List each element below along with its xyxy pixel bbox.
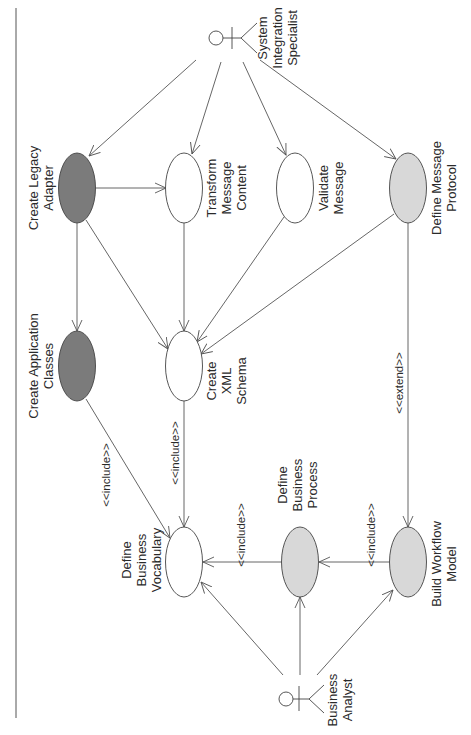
edge-sis-cla xyxy=(89,60,196,156)
svg-text:Classes: Classes xyxy=(41,342,56,389)
svg-text:<<include>>: <<include>> xyxy=(169,421,181,485)
label-create-application-classes: Create Application Classes xyxy=(26,313,56,419)
svg-text:XML: XML xyxy=(219,368,234,395)
svg-text:Business: Business xyxy=(134,533,149,586)
stereotype-dbp-dbv: <<include>> xyxy=(235,503,247,567)
svg-text:System: System xyxy=(255,16,270,59)
use-case-create-xml-schema[interactable] xyxy=(166,331,203,401)
edge-dmp-cxs xyxy=(201,214,394,354)
svg-text:<<extend>>: <<extend>> xyxy=(393,352,405,414)
actor-leg xyxy=(309,699,324,713)
svg-text:Process: Process xyxy=(305,461,320,508)
use-case-define-business-process[interactable] xyxy=(282,527,319,597)
use-case-transform-message-content[interactable] xyxy=(166,153,203,223)
label-define-business-vocabulary: Define Business Vocabulary xyxy=(119,527,164,592)
label-system-integration-specialist: System Integration Specialist xyxy=(255,7,300,68)
svg-text:<<include>>: <<include>> xyxy=(100,443,112,507)
use-case-define-business-vocabulary[interactable] xyxy=(166,527,203,597)
svg-text:Create: Create xyxy=(204,361,219,400)
use-case-build-workflow-model[interactable] xyxy=(390,527,427,597)
label-create-legacy-adapter: Create Legacy Adapter xyxy=(26,145,56,230)
stereotype-cac-dbv: <<include>> xyxy=(100,443,112,507)
svg-text:Transform: Transform xyxy=(204,159,219,218)
label-transform-message-content: Transform Message Content xyxy=(204,159,249,218)
svg-text:Build Workflow: Build Workflow xyxy=(429,521,444,607)
label-define-business-process: Define Business Process xyxy=(275,458,320,511)
svg-text:Integration: Integration xyxy=(270,7,285,68)
use-case-create-application-classes[interactable] xyxy=(59,331,96,401)
svg-text:<<include>>: <<include>> xyxy=(365,503,377,567)
svg-text:Validate: Validate xyxy=(316,165,331,211)
use-case-diagram: System Integration Specialist Business A… xyxy=(0,0,471,735)
svg-text:Model: Model xyxy=(444,546,459,582)
edge-ba-dbv xyxy=(201,582,283,675)
svg-text:<<include>>: <<include>> xyxy=(235,503,247,567)
actor-leg xyxy=(309,685,324,699)
svg-text:Message: Message xyxy=(219,162,234,215)
edge-sis-dmp xyxy=(260,60,396,159)
label-create-xml-schema: Create XML Schema xyxy=(204,356,249,404)
edge-ba-bwm xyxy=(317,590,393,675)
svg-text:Content: Content xyxy=(234,165,249,211)
label-validate-message: Validate Message xyxy=(316,162,346,215)
actor-head-icon xyxy=(279,692,293,706)
svg-text:Analyst: Analyst xyxy=(340,678,355,721)
svg-text:Define: Define xyxy=(119,541,134,579)
edge-cac-dbv xyxy=(86,399,170,538)
svg-text:Specialist: Specialist xyxy=(285,10,300,66)
svg-text:Define Message: Define Message xyxy=(429,141,444,235)
svg-text:Define: Define xyxy=(275,466,290,504)
svg-text:Create Legacy: Create Legacy xyxy=(26,145,41,230)
use-case-define-message-protocol[interactable] xyxy=(390,153,427,223)
use-case-validate-message[interactable] xyxy=(277,153,314,223)
label-build-workflow-model: Build Workflow Model xyxy=(429,521,459,607)
stereotype-bwm-dbp: <<include>> xyxy=(365,503,377,567)
svg-text:Business: Business xyxy=(325,673,340,726)
edge-cla-cxs xyxy=(86,220,168,349)
use-case-create-legacy-adapter[interactable] xyxy=(59,153,96,223)
actor-head-icon xyxy=(209,31,223,45)
svg-text:Adapter: Adapter xyxy=(41,165,56,211)
svg-text:Schema: Schema xyxy=(234,356,249,404)
actor-business-analyst[interactable] xyxy=(279,685,324,713)
svg-text:Create Application: Create Application xyxy=(26,313,41,419)
label-business-analyst: Business Analyst xyxy=(325,673,355,726)
svg-text:Vocabulary: Vocabulary xyxy=(149,527,164,592)
stereotype-cxs-dbv: <<include>> xyxy=(169,421,181,485)
label-define-message-protocol: Define Message Protocol xyxy=(429,141,459,235)
svg-text:Protocol: Protocol xyxy=(444,164,459,212)
actor-system-integration-specialist[interactable] xyxy=(209,23,257,53)
stereotype-dmp-bwm: <<extend>> xyxy=(393,352,405,414)
edge-sis-vm xyxy=(243,62,286,155)
svg-text:Message: Message xyxy=(331,162,346,215)
svg-text:Business: Business xyxy=(290,458,305,511)
edge-vm-cxs xyxy=(197,217,284,342)
edge-sis-tmc xyxy=(192,62,221,154)
